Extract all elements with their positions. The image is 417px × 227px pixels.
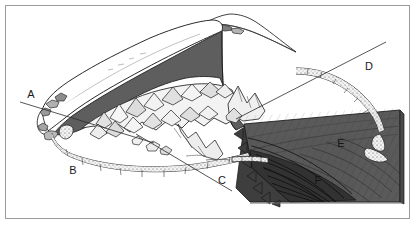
- left-rubble-5: [44, 131, 58, 140]
- block-right-cut-face: [400, 110, 404, 204]
- label-a: A: [27, 88, 35, 100]
- figure-root: A B C D E F: [0, 0, 417, 227]
- moraine-b-left-hummock: [59, 125, 73, 139]
- breccia-lower-spur: [178, 124, 223, 160]
- crest-rubble-3: [231, 28, 244, 34]
- outwash-trace-2: [186, 155, 206, 156]
- label-d: D: [365, 60, 373, 72]
- label-e: E: [337, 137, 345, 149]
- clast-2: [160, 146, 172, 155]
- label-b: B: [69, 164, 77, 176]
- label-c: C: [218, 174, 226, 186]
- section-line-right: [236, 42, 386, 119]
- label-f: F: [314, 174, 321, 186]
- landform-diagram-svg: A B C D E F: [0, 0, 417, 227]
